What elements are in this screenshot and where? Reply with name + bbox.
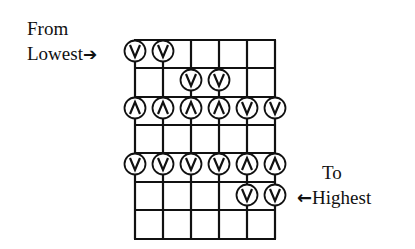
downstroke-marker-icon bbox=[209, 70, 230, 91]
downstroke-marker-icon bbox=[153, 41, 174, 62]
lowest-text: Lowest bbox=[27, 43, 83, 64]
arrow-right-icon: ➔ bbox=[83, 44, 97, 64]
upstroke-marker-icon bbox=[237, 154, 258, 175]
highest-label: ←Highest bbox=[297, 188, 371, 208]
downstroke-marker-icon bbox=[265, 185, 286, 206]
downstroke-marker-icon bbox=[125, 154, 146, 175]
downstroke-marker-icon bbox=[181, 70, 202, 91]
upstroke-marker-icon bbox=[265, 154, 286, 175]
downstroke-marker-icon bbox=[125, 41, 146, 62]
highest-text: Highest bbox=[312, 187, 371, 208]
downstroke-marker-icon bbox=[209, 154, 230, 175]
arrow-left-icon: ← bbox=[297, 187, 312, 208]
from-label: From bbox=[27, 19, 68, 39]
upstroke-marker-icon bbox=[153, 98, 174, 119]
upstroke-marker-icon bbox=[181, 98, 202, 119]
downstroke-marker-icon bbox=[237, 185, 258, 206]
downstroke-marker-icon bbox=[237, 98, 258, 119]
downstroke-marker-icon bbox=[181, 154, 202, 175]
to-label: To bbox=[322, 163, 342, 183]
upstroke-marker-icon bbox=[125, 98, 146, 119]
upstroke-marker-icon bbox=[209, 98, 230, 119]
downstroke-marker-icon bbox=[265, 98, 286, 119]
lowest-label: Lowest➔ bbox=[27, 44, 97, 64]
downstroke-marker-icon bbox=[153, 154, 174, 175]
